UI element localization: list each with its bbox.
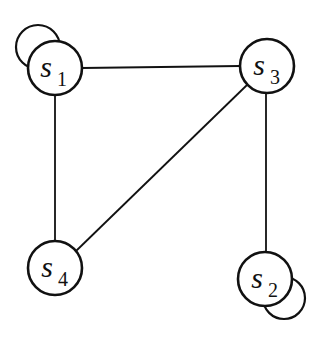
edge-s1-s3 [82,66,240,68]
node-s2: s 2 [238,252,292,306]
node-s2-subscript: 2 [268,279,278,301]
node-s3: s 3 [240,39,294,93]
node-s4-label: s [41,250,53,283]
graph-svg: s 1 s 3 s 4 s 2 [0,0,327,337]
graph-diagram: s 1 s 3 s 4 s 2 [0,0,327,337]
node-s1-subscript: 1 [57,68,67,90]
node-s4-subscript: 4 [58,268,68,290]
node-s3-label: s [253,48,265,81]
edge-s3-s4 [76,85,247,251]
node-s3-subscript: 3 [270,66,280,88]
node-s4: s 4 [28,241,82,295]
node-s2-label: s [251,261,263,294]
node-s1-label: s [40,50,52,83]
node-s1: s 1 [28,41,82,95]
